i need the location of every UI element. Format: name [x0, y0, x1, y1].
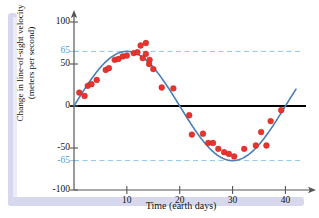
scatter-point: [189, 132, 195, 138]
scatter-point: [264, 143, 270, 149]
scatter-point: [210, 140, 216, 146]
scatter-point: [138, 43, 144, 49]
scatter-point: [231, 154, 237, 160]
scatter-point: [82, 93, 88, 99]
scatter-point: [170, 85, 176, 91]
y-axis-label-line1: Change in line-of-sight velocity: [15, 0, 26, 153]
x-tick-label-20: 20: [170, 195, 190, 205]
y-tick-label-65: 65: [26, 45, 70, 55]
scatter-point: [159, 85, 165, 91]
scatter-point: [226, 151, 232, 157]
scatter-point: [124, 53, 130, 59]
scatter-point: [89, 81, 95, 87]
scatter-point: [200, 131, 206, 137]
scatter-point: [258, 129, 264, 135]
scatter-point: [253, 143, 259, 149]
y-tick-label-neg100: -100: [26, 184, 70, 194]
figure-panel: Change in line-of-sight velocity (meters…: [0, 0, 319, 218]
scatter-point: [215, 146, 221, 152]
scatter-point: [106, 65, 112, 71]
y-tick-label-50: 50: [26, 58, 70, 68]
y-tick-label-100: 100: [26, 16, 70, 26]
scatter-point: [278, 107, 284, 113]
scatter-point-group: [76, 40, 284, 159]
scatter-point: [268, 118, 274, 124]
scatter-point: [76, 90, 82, 96]
x-tick-label-30: 30: [223, 195, 243, 205]
scatter-point: [143, 40, 149, 46]
x-tick-label-10: 10: [117, 195, 137, 205]
scatter-point: [143, 51, 149, 57]
y-tick-label-neg50: -50: [26, 142, 70, 152]
scatter-point: [150, 66, 156, 72]
x-tick-label-40: 40: [275, 195, 295, 205]
scatter-point: [135, 49, 141, 55]
y-tick-label-0: 0: [26, 100, 70, 110]
scatter-point: [186, 112, 192, 118]
y-tick-label-neg65: -65: [26, 155, 70, 165]
scatter-point: [241, 146, 247, 152]
scatter-point: [94, 77, 100, 83]
scatter-point: [147, 57, 153, 63]
